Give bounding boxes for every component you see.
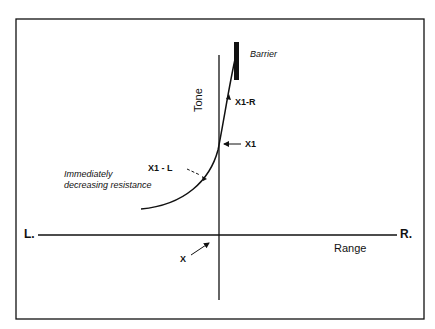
resistance-label-line1: Immediately	[64, 169, 113, 179]
range-axis-label: Range	[334, 242, 366, 254]
x-label: X	[180, 254, 186, 264]
left-end-label: L.	[24, 227, 35, 241]
x-arrow-icon	[191, 243, 209, 255]
tone-axis-label: Tone	[192, 88, 204, 112]
resistance-curve	[141, 55, 236, 209]
x1-l-arrow-icon	[187, 169, 200, 175]
x1-r-arrowhead-icon	[226, 94, 231, 100]
diagram-canvas: L. R. Range Tone Barrier X1-R X1 X1 - L …	[0, 0, 435, 329]
x1-label: X1	[245, 139, 256, 149]
x1-l-label: X1 - L	[148, 163, 173, 173]
resistance-label-line2: decreasing resistance	[64, 180, 152, 190]
x1-r-label: X1-R	[235, 97, 256, 107]
right-end-label: R.	[400, 227, 412, 241]
barrier-label: Barrier	[250, 49, 278, 59]
